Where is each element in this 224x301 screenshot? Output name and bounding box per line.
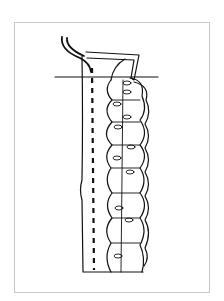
sewing-illustration: [0, 0, 224, 301]
thread-icon: [62, 37, 91, 72]
scalloped-edge: [107, 78, 149, 272]
stitch-line: [92, 68, 94, 270]
fabric-strip: [81, 52, 144, 272]
figure-frame: [15, 23, 210, 293]
loop-stitches: [113, 81, 135, 258]
